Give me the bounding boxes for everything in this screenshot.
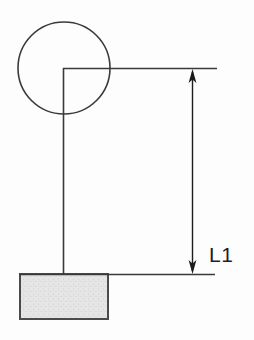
dimension-label: L1 [209,243,233,266]
figure-canvas: L1 [0,0,254,340]
mass-block [20,274,108,319]
pulley-diagram: L1 [0,0,254,340]
